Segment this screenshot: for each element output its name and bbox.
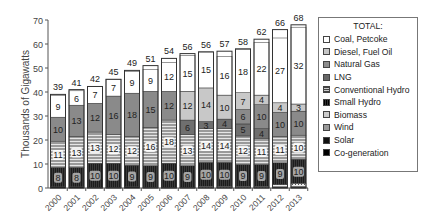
- segment-value-label: 10: [275, 120, 285, 130]
- bar-total-label: 51: [145, 54, 155, 64]
- x-tick-label: 2001: [61, 192, 82, 213]
- bar-2004: 91218949: [125, 58, 140, 188]
- segment-value-label: 10: [53, 125, 63, 135]
- segment-value-label: 4: [259, 129, 264, 139]
- x-tick-label: 2012: [265, 192, 286, 213]
- segment-value-label: 9: [277, 169, 282, 179]
- segment-value-label: 3: [203, 121, 208, 131]
- segment-value-label: 13: [71, 116, 81, 126]
- x-axis-labels: 2000200120022003200420052006200720082009…: [43, 192, 304, 213]
- legend-label: Wind: [334, 122, 354, 132]
- bar-total-label: 49: [127, 58, 137, 68]
- segment-value-label: 18: [164, 137, 174, 147]
- legend-swatch-icon: [323, 149, 330, 156]
- legend-swatch-icon: [323, 74, 330, 81]
- segment-value-label: 12: [108, 144, 118, 154]
- segment-wind: [273, 184, 288, 186]
- segment-value-label: 6: [74, 94, 79, 104]
- segment-value-label: 12: [127, 146, 137, 156]
- bar-2005: 91615951: [143, 54, 158, 188]
- segment-value-label: 12: [182, 101, 192, 111]
- segment-value-label: 7: [92, 90, 97, 100]
- bar-total-label: 62: [256, 27, 266, 37]
- y-tick-label: 60: [33, 40, 43, 50]
- legend-label: LNG: [334, 72, 352, 82]
- segment-value-label: 16: [145, 142, 155, 152]
- y-tick-label: 0: [38, 184, 43, 194]
- legend-swatch-icon: [323, 61, 330, 68]
- segment-value-label: 27: [275, 66, 285, 76]
- legend-item-co-generation: Co-generation: [323, 146, 417, 159]
- segment-value-label: 18: [238, 67, 248, 77]
- legend-item-natural-gas: Natural Gas: [323, 58, 417, 71]
- legend-item-solar: Solar: [323, 134, 417, 147]
- segment-value-label: 4: [277, 103, 282, 113]
- segment-value-label: 7: [111, 83, 116, 93]
- chart-legend: TOTAL: Coal, PetcokeDiesel, Fuel OilNatu…: [318, 17, 418, 172]
- segment-value-label: 10: [108, 171, 118, 181]
- bar-2006: 1018121254: [162, 46, 177, 188]
- segment-value-label: 6: [185, 123, 190, 133]
- bar-total-label: 66: [275, 18, 285, 28]
- legend-label: Solar: [334, 135, 354, 145]
- x-tick-label: 2011: [247, 192, 267, 212]
- bar-2009: 10144101657: [217, 39, 232, 188]
- segment-value-label: 10: [256, 112, 266, 122]
- x-tick-label: 2008: [191, 192, 212, 213]
- segment-value-label: 16: [108, 111, 118, 121]
- bar-total-label: 56: [182, 42, 192, 52]
- legend-item-lng: LNG: [323, 71, 417, 84]
- segment-value-label: 9: [148, 76, 153, 86]
- segment-value-label: 14: [201, 141, 211, 151]
- bar-2001: 81313641: [69, 78, 84, 188]
- y-tick-label: 30: [33, 112, 43, 122]
- segment-value-label: 10: [219, 170, 229, 180]
- segment-wind: [291, 183, 306, 186]
- segment-value-label: 10: [219, 103, 229, 113]
- segment-value-label: 9: [259, 171, 264, 181]
- y-tick-label: 10: [33, 160, 43, 170]
- segment-value-label: 10: [293, 119, 303, 129]
- segment-value-label: 9: [148, 172, 153, 182]
- bar-total-label: 68: [293, 13, 303, 23]
- segment-value-label: 14: [201, 100, 211, 110]
- segment-value-label: 10: [164, 171, 174, 181]
- bar-total-label: 39: [53, 82, 63, 92]
- segment-value-label: 7: [240, 97, 245, 107]
- segment-value-label: 12: [90, 113, 100, 123]
- y-tick-label: 40: [33, 88, 43, 98]
- legend-swatch-icon: [323, 111, 330, 118]
- bar-2002: 101312742: [88, 74, 103, 188]
- bar-2013: 10101033268: [291, 13, 306, 188]
- segment-value-label: 3: [296, 103, 301, 113]
- segment-value-label: 10: [90, 171, 100, 181]
- segment-value-label: 11: [257, 147, 266, 157]
- legend-label: Natural Gas: [334, 59, 380, 69]
- segment-value-label: 14: [219, 141, 229, 151]
- segment-value-label: 13: [71, 148, 81, 158]
- bar-total-label: 41: [71, 78, 81, 88]
- legend-swatch-icon: [323, 48, 330, 55]
- x-tick-label: 2005: [135, 192, 156, 213]
- legend-label: Coal, Petcoke: [334, 34, 388, 44]
- segment-value-label: 11: [53, 150, 62, 160]
- bar-2008: 10143141556: [199, 40, 214, 188]
- x-tick-label: 2013: [283, 192, 304, 213]
- y-tick-label: 70: [33, 16, 43, 26]
- segment-value-label: 22: [256, 64, 266, 74]
- legend-label: Biomass: [334, 110, 367, 120]
- bar-total-label: 42: [90, 74, 100, 84]
- bar-2012: 9111042766: [273, 18, 288, 188]
- legend-item-wind: Wind: [323, 121, 417, 134]
- bar-total-label: 57: [219, 39, 229, 49]
- x-tick-label: 2006: [154, 192, 175, 213]
- bar-total-label: 56: [201, 40, 211, 50]
- segment-value-label: 13: [182, 146, 192, 156]
- segment-value-label: 12: [238, 146, 248, 156]
- segment-value-label: 9: [129, 172, 134, 182]
- legend-label: Co-generation: [334, 148, 388, 158]
- legend-title: TOTAL:: [323, 21, 417, 31]
- legend-item-biomass: Biomass: [323, 109, 417, 122]
- segment-value-label: 9: [55, 102, 60, 112]
- legend-swatch-icon: [323, 124, 330, 131]
